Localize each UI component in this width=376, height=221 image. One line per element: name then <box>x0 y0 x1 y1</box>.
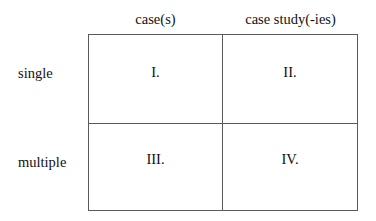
column-header-case-studies: case study(-ies) <box>223 9 358 29</box>
matrix-cell-label-2: II. <box>223 63 357 81</box>
column-header-cases: case(s) <box>88 9 223 29</box>
matrix-figure: case(s) case study(-ies) single multiple… <box>0 0 376 221</box>
matrix-grid: I. II. III. IV. <box>88 34 358 211</box>
matrix-cell-label-3: III. <box>89 150 222 168</box>
matrix-cell-label-1: I. <box>89 63 222 81</box>
row-header-single: single <box>18 63 84 83</box>
matrix-cell-1: I. <box>89 35 223 124</box>
matrix-cell-3: III. <box>89 124 223 210</box>
row-header-multiple: multiple <box>18 152 84 172</box>
matrix-cell-label-4: IV. <box>223 150 357 168</box>
matrix-cell-2: II. <box>223 35 357 124</box>
matrix-cell-4: IV. <box>223 124 357 210</box>
